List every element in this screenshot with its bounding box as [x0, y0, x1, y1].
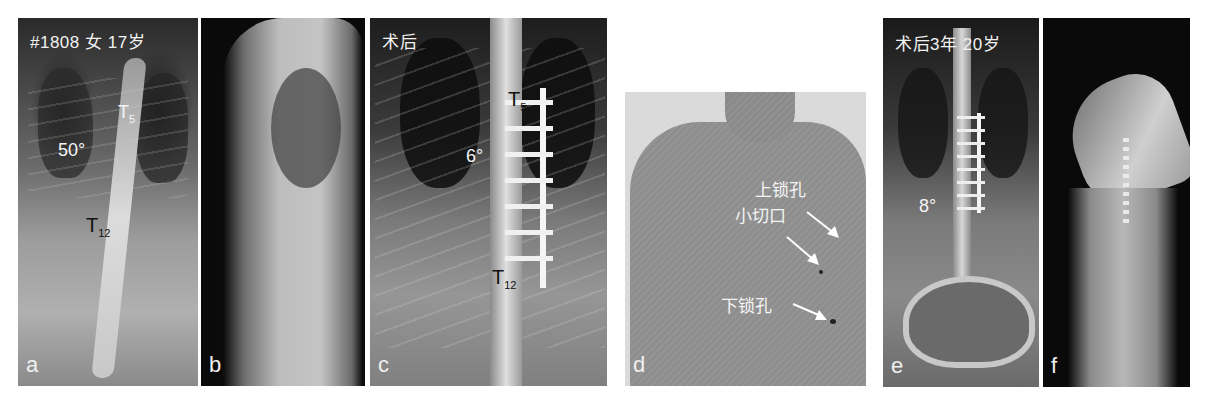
- incision-arrow-icon: [785, 235, 825, 269]
- t5-label: T5: [118, 102, 135, 125]
- t12-label: T12: [86, 214, 110, 239]
- panel-e-followup-ap-xray: 术后3年 20岁 8° e: [883, 18, 1039, 387]
- panel-letter: e: [891, 353, 903, 379]
- panel-a-preop-ap-xray: #1808 女 17岁 T5 50° T12 a: [18, 18, 198, 386]
- lower-port-mark: [830, 319, 836, 324]
- cobb-angle: 6°: [466, 146, 483, 167]
- pedicle-screws: [505, 100, 553, 280]
- panel-c-postop-ap-xray: 术后 T5 6° T12 c: [370, 18, 607, 386]
- cobb-angle: 50°: [58, 140, 85, 161]
- lower-port-arrow-icon: [791, 300, 831, 324]
- lung-field: [271, 68, 341, 188]
- panel-letter: b: [209, 352, 221, 378]
- lung-left: [898, 68, 948, 178]
- panel-f-followup-lateral-xray: f: [1043, 18, 1190, 387]
- ribs: [28, 78, 188, 198]
- incision-mark: [819, 270, 823, 274]
- t5-label: T5: [508, 88, 526, 113]
- followup-label: 术后3年 20岁: [895, 30, 1000, 55]
- pedicle-screws: [957, 116, 985, 216]
- lung-right: [978, 68, 1028, 178]
- small-incision-label: 小切口: [735, 202, 786, 227]
- panel-letter: d: [633, 352, 645, 378]
- panel-d-patient-photo: 上锁孔 小切口 下锁孔 d: [625, 92, 866, 386]
- panel-letter: a: [26, 352, 38, 378]
- upper-port-label: 上锁孔: [755, 176, 806, 201]
- postop-label: 术后: [382, 28, 417, 53]
- lower-port-label: 下锁孔: [721, 292, 772, 317]
- panel-letter: c: [378, 352, 389, 378]
- patient-info: #1808 女 17岁: [30, 28, 145, 53]
- cobb-angle: 8°: [919, 196, 936, 217]
- panel-b-preop-lateral-xray: b: [201, 18, 365, 386]
- t12-label: T12: [492, 266, 516, 291]
- pelvis: [903, 276, 1035, 368]
- instrumentation: [1123, 138, 1129, 228]
- panel-letter: f: [1051, 353, 1057, 379]
